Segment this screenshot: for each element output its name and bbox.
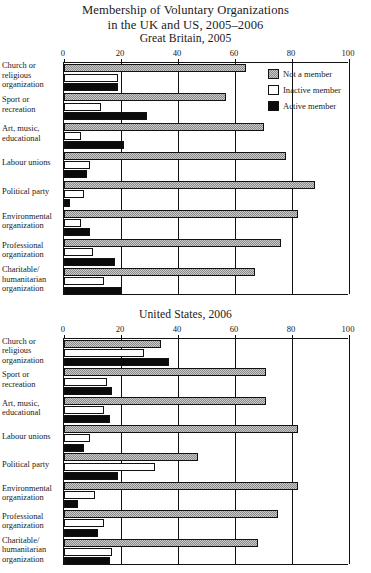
- category-label-line: Charitable/: [2, 265, 62, 274]
- category-label-line: organization: [2, 221, 62, 230]
- category-label-5: Environmentalorganization: [2, 212, 62, 231]
- category-label-line: Professional: [2, 241, 62, 250]
- xtick-label-80: 80: [287, 48, 296, 58]
- bar-inactive: [64, 378, 107, 386]
- category-label-line: Sport or: [2, 95, 62, 104]
- category-label-line: Environmental: [2, 212, 62, 221]
- bar-inactive: [64, 161, 90, 169]
- gridline-100: [349, 339, 350, 564]
- bar-active: [64, 444, 84, 452]
- bar-active: [64, 199, 70, 207]
- bar-notmember: [64, 152, 286, 160]
- bar-notmember: [64, 453, 198, 461]
- xtick-label-20: 20: [116, 324, 125, 334]
- bar-group-1: [64, 367, 348, 395]
- bar-active: [64, 387, 112, 395]
- category-label-7: Charitable/humanitarianorganization: [2, 536, 62, 564]
- category-label-line: Sport or: [2, 370, 62, 379]
- category-label-0: Church orreligiousorganization: [2, 337, 62, 365]
- bar-notmember: [64, 397, 266, 405]
- bar-group-0: [64, 339, 348, 367]
- category-label-7: Charitable/humanitarianorganization: [2, 265, 62, 293]
- legend-item-active: Active member: [268, 100, 368, 111]
- xtick-label-20: 20: [116, 48, 125, 58]
- chart2-plot-area: [63, 338, 348, 565]
- bar-inactive: [64, 406, 104, 414]
- category-label-4: Political party: [2, 187, 62, 196]
- xtick-label-60: 60: [230, 324, 239, 334]
- chart1-xaxis-ticks: 020406080100: [0, 48, 371, 61]
- bar-group-2: [64, 396, 348, 424]
- bar-group-5: [64, 209, 348, 238]
- category-label-line: educational: [2, 408, 62, 417]
- xtick-label-40: 40: [173, 48, 182, 58]
- bar-active: [64, 415, 110, 423]
- category-label-line: humanitarian: [2, 545, 62, 554]
- chart-page: Membership of Voluntary Organizations in…: [0, 0, 371, 573]
- legend-item-inactive: Inactive member: [268, 84, 368, 95]
- category-label-1: Sport orrecreation: [2, 370, 62, 389]
- bar-notmember: [64, 123, 264, 131]
- category-label-line: Church or: [2, 337, 62, 346]
- chart-united-states-2006: 020406080100 Church orreligiousorganizat…: [0, 324, 371, 568]
- page-title-line1: Membership of Voluntary Organizations: [82, 3, 289, 17]
- category-label-line: Church or: [2, 61, 62, 70]
- bar-group-3: [64, 150, 348, 179]
- legend-label-active: Active member: [283, 101, 336, 111]
- bar-inactive: [64, 103, 101, 111]
- category-label-line: Labour unions: [2, 158, 62, 167]
- bar-inactive: [64, 349, 144, 357]
- bar-notmember: [64, 340, 161, 348]
- category-label-line: organization: [2, 521, 62, 530]
- category-label-5: Environmentalorganization: [2, 484, 62, 503]
- bar-inactive: [64, 463, 155, 471]
- category-label-line: organization: [2, 356, 62, 365]
- xtick-label-100: 100: [342, 324, 355, 334]
- bar-inactive: [64, 277, 104, 285]
- xtick-mark-100: [349, 59, 350, 63]
- category-label-line: organization: [2, 493, 62, 502]
- category-label-line: Charitable/: [2, 536, 62, 545]
- category-label-2: Art, music,educational: [2, 124, 62, 143]
- bar-notmember: [64, 482, 298, 490]
- bar-notmember: [64, 239, 281, 247]
- bar-active: [64, 83, 118, 91]
- category-label-2: Art, music,educational: [2, 399, 62, 418]
- category-label-line: educational: [2, 134, 62, 143]
- bar-active: [64, 258, 115, 266]
- bar-notmember: [64, 93, 226, 101]
- category-label-line: organization: [2, 555, 62, 564]
- bar-active: [64, 557, 110, 565]
- bar-group-7: [64, 267, 348, 296]
- bar-inactive: [64, 219, 81, 227]
- xtick-label-80: 80: [287, 324, 296, 334]
- bar-notmember: [64, 539, 258, 547]
- category-label-line: humanitarian: [2, 275, 62, 284]
- bar-inactive: [64, 519, 104, 527]
- legend-label-notmember: Not a member: [283, 69, 332, 79]
- category-label-line: recreation: [2, 105, 62, 114]
- category-label-line: organization: [2, 80, 62, 89]
- category-label-line: Professional: [2, 512, 62, 521]
- bar-notmember: [64, 64, 246, 72]
- bar-inactive: [64, 74, 118, 82]
- bar-active: [64, 287, 121, 295]
- bar-active: [64, 358, 169, 366]
- bar-notmember: [64, 268, 255, 276]
- bar-active: [64, 228, 90, 236]
- bar-group-4: [64, 180, 348, 209]
- xtick-label-40: 40: [173, 324, 182, 334]
- bar-inactive: [64, 190, 84, 198]
- legend-swatch-inactive: [268, 85, 279, 95]
- xtick-label-0: 0: [61, 324, 65, 334]
- chart2-xaxis-ticks: 020406080100: [0, 324, 371, 337]
- category-label-1: Sport orrecreation: [2, 95, 62, 114]
- bar-active: [64, 529, 98, 537]
- category-label-line: Political party: [2, 460, 62, 469]
- bar-inactive: [64, 132, 81, 140]
- bar-notmember: [64, 425, 298, 433]
- category-label-line: religious: [2, 346, 62, 355]
- bar-active: [64, 112, 147, 120]
- page-title: Membership of Voluntary Organizations in…: [0, 3, 371, 32]
- xtick-label-60: 60: [230, 48, 239, 58]
